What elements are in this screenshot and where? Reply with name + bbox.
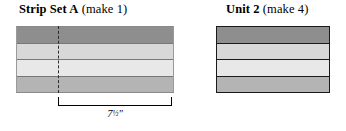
unit-2-title: Unit 2 (make 4) [226, 2, 308, 17]
measurement-unit: ″ [118, 108, 122, 119]
measurement-bracket [58, 97, 172, 106]
strip-set-a-block [16, 26, 174, 93]
unit-2-title-main: Unit 2 [226, 2, 260, 16]
strip-set-a-title: Strip Set A (make 1) [19, 2, 127, 17]
unit-2-band-1 [217, 27, 329, 43]
measurement-label: 7½″ [58, 108, 172, 119]
strip-set-a-band-3 [17, 59, 173, 76]
unit-2-block [216, 26, 330, 93]
unit-2-band-2 [217, 43, 329, 60]
bracket-tick-right [171, 97, 172, 106]
bracket-bar [58, 105, 172, 106]
strip-set-a-band-2 [17, 43, 173, 60]
unit-2-band-3 [217, 59, 329, 76]
strip-set-a-band-4 [17, 76, 173, 93]
unit-2-title-note: (make 4) [263, 2, 309, 16]
cut-line [58, 26, 59, 93]
strip-set-a-title-main: Strip Set A [19, 2, 78, 16]
quilting-diagram: Strip Set A (make 1) 7½″ Unit 2 (make 4) [0, 0, 346, 131]
unit-2-band-4 [217, 76, 329, 93]
strip-set-a-band-1 [17, 27, 173, 43]
strip-set-a-title-note: (make 1) [82, 2, 128, 16]
